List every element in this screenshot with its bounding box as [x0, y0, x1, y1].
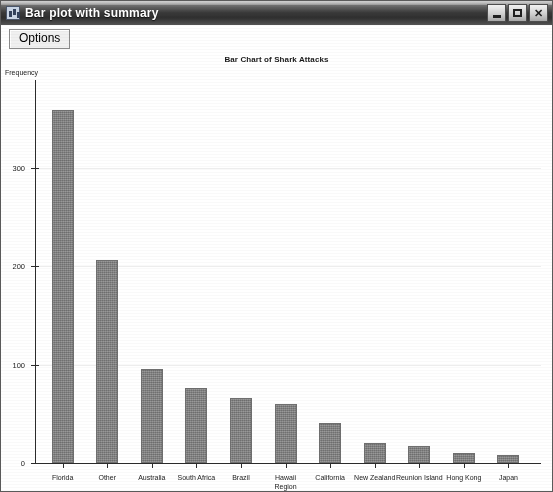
- bar: [52, 110, 74, 463]
- y-axis-tick: 0: [31, 463, 39, 464]
- bar: [497, 455, 519, 463]
- application-window: Bar plot with summary ✕ Options Bar Char…: [0, 0, 553, 492]
- x-axis-tick: Brazil: [241, 463, 242, 468]
- bar: [453, 453, 475, 463]
- title-bar: Bar plot with summary ✕: [1, 1, 552, 25]
- minimize-icon: [488, 5, 505, 21]
- bar: [230, 398, 252, 463]
- x-axis-tick: Australia: [152, 463, 153, 468]
- x-axis-tick: Other: [107, 463, 108, 468]
- y-axis-tick-label: 200: [12, 262, 25, 271]
- toolbar: Options: [1, 25, 552, 53]
- close-button[interactable]: ✕: [529, 4, 548, 22]
- y-axis-tick-label: 300: [12, 163, 25, 172]
- y-axis-label: Frequency: [5, 69, 38, 76]
- x-axis-tick: South Africa: [196, 463, 197, 468]
- bar: [96, 260, 118, 463]
- y-axis-line: [35, 80, 36, 464]
- maximize-icon: [509, 5, 526, 21]
- y-axis-tick: 300: [31, 168, 39, 169]
- x-axis-tick: Florida: [63, 463, 64, 468]
- window-title: Bar plot with summary: [25, 6, 159, 20]
- bar: [364, 443, 386, 463]
- y-axis-tick: 100: [31, 365, 39, 366]
- x-axis-line: [35, 463, 541, 464]
- y-axis-tick-label: 0: [21, 459, 25, 468]
- close-icon: ✕: [530, 5, 547, 21]
- app-icon: [6, 6, 20, 20]
- x-axis-tick: Reunion Island: [419, 463, 420, 468]
- options-button[interactable]: Options: [9, 29, 70, 50]
- y-axis-tick: 200: [31, 266, 39, 267]
- bar: [275, 404, 297, 463]
- x-axis-tick: Hong Kong: [464, 463, 465, 468]
- plot-area: 0100200300 FloridaOtherAustraliaSouth Af…: [35, 80, 541, 464]
- bar: [185, 388, 207, 463]
- gridline: [35, 168, 541, 169]
- bar: [408, 446, 430, 463]
- x-axis-tick-label: Japan: [478, 474, 538, 483]
- window-controls: ✕: [487, 4, 550, 22]
- x-axis-tick: Hawaii Region: [286, 463, 287, 468]
- chart-area: Bar Chart of Shark Attacks Frequency 010…: [1, 53, 552, 491]
- bar: [141, 369, 163, 463]
- y-axis-tick-label: 100: [12, 360, 25, 369]
- minimize-button[interactable]: [487, 4, 506, 22]
- bar: [319, 423, 341, 463]
- x-axis-tick: New Zealand: [375, 463, 376, 468]
- chart-title: Bar Chart of Shark Attacks: [1, 55, 552, 64]
- maximize-button[interactable]: [508, 4, 527, 22]
- x-axis-tick: Japan: [508, 463, 509, 468]
- x-axis-tick: California: [330, 463, 331, 468]
